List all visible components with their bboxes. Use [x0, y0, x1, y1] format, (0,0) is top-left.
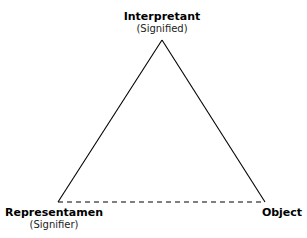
node-interpretant: Interpretant (Signified)	[112, 10, 212, 35]
node-object-title: Object	[258, 206, 306, 219]
node-interpretant-subtitle: (Signified)	[112, 23, 212, 35]
node-object: Object	[258, 206, 306, 219]
node-representamen-subtitle: (Signifier)	[2, 219, 106, 231]
node-interpretant-title: Interpretant	[112, 10, 212, 23]
node-representamen-title: Representamen	[2, 206, 106, 219]
node-representamen: Representamen (Signifier)	[2, 206, 106, 231]
edge-representamen-interpretant	[58, 40, 162, 202]
edge-interpretant-object	[162, 40, 265, 202]
triangle-diagram	[0, 0, 307, 238]
